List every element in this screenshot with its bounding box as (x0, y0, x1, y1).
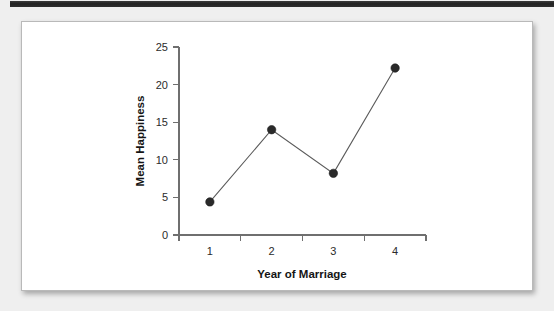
y-tick-label: 10 (156, 154, 168, 166)
x-axis-ticks (179, 235, 426, 241)
data-point-marker (329, 169, 337, 177)
series-markers (206, 64, 400, 206)
y-axis-title: Mean Happiness (134, 96, 146, 187)
figure-card: 0510152025 1234 Year of Marriage Mean Ha… (21, 21, 533, 291)
x-tick-label: 2 (269, 245, 275, 257)
y-tick-label: 15 (156, 116, 168, 128)
x-axis-title: Year of Marriage (257, 268, 346, 280)
x-axis-tick-labels: 1234 (207, 245, 398, 257)
chart-area: 0510152025 1234 Year of Marriage Mean Ha… (22, 22, 534, 292)
y-tick-label: 0 (162, 229, 168, 241)
y-tick-label: 25 (156, 41, 168, 53)
series-line-mean-happiness (210, 68, 395, 202)
y-axis-tick-labels: 0510152025 (156, 41, 168, 241)
x-tick-label: 4 (392, 245, 398, 257)
x-tick-label: 3 (330, 245, 336, 257)
data-point-marker (391, 64, 399, 72)
line-chart: 0510152025 1234 Year of Marriage Mean Ha… (22, 22, 534, 292)
data-point-marker (206, 198, 214, 206)
y-tick-label: 20 (156, 79, 168, 91)
y-axis-ticks (173, 47, 179, 235)
top-dark-band (10, 1, 554, 7)
data-point-marker (267, 126, 275, 134)
x-tick-label: 1 (207, 245, 213, 257)
y-tick-label: 5 (162, 191, 168, 203)
